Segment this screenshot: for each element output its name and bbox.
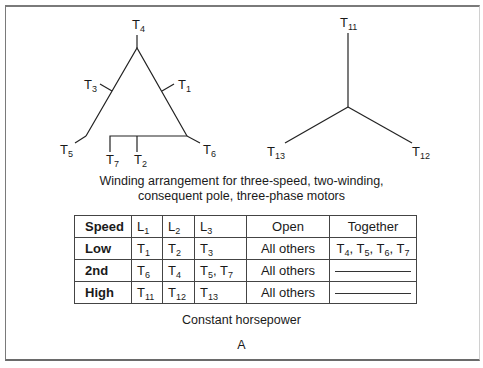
diagram-caption-line1: Winding arrangement for three-speed, two… [0,173,483,189]
terminal-t11-label: T11 [340,16,357,29]
terminal-t2-label: T2 [134,153,147,166]
diagram-caption-line2: consequent pole, three-phase motors [0,188,483,204]
cell-open: All others [247,260,330,282]
cell-l1: T1 [132,238,163,260]
figure-label: A [0,337,483,353]
table-subtitle: Constant horsepower [0,312,483,328]
cell-l2: T12 [163,282,195,304]
terminal-t12-label: T12 [412,145,430,158]
header-speed: Speed [75,216,132,238]
cell-together-empty [330,282,417,304]
cell-speed: High [75,282,132,304]
header-l1: L1 [132,216,163,238]
connection-table: Speed L1 L2 L3 Open Together Low T1 T2 T… [74,215,417,304]
table-row: Low T1 T2 T3 All others T4, T5, T6, T7 [75,238,417,260]
cell-l3: T5, T7 [195,260,247,282]
terminal-t13-label: T13 [267,145,285,158]
cell-l3: T3 [195,238,247,260]
terminal-t3-label: T3 [84,78,97,91]
cell-l1: T6 [132,260,163,282]
header-open: Open [247,216,330,238]
terminal-t1-label: T1 [178,78,191,91]
empty-dash [335,271,411,272]
header-l3: L3 [195,216,247,238]
header-l2: L2 [163,216,195,238]
cell-l1: T11 [132,282,163,304]
cell-l3: T13 [195,282,247,304]
terminal-t6-label: T6 [203,143,216,156]
terminal-t7-label: T7 [106,153,119,166]
wye-winding [285,33,412,143]
terminal-t5-label: T5 [60,143,73,156]
cell-l2: T2 [163,238,195,260]
empty-dash [335,293,411,294]
table-row: High T11 T12 T13 All others [75,282,417,304]
header-together: Together [330,216,417,238]
cell-together: T4, T5, T6, T7 [330,238,417,260]
cell-speed: Low [75,238,132,260]
table-header-row: Speed L1 L2 L3 Open Together [75,216,417,238]
terminal-t4-label: T4 [132,18,145,31]
cell-open: All others [247,238,330,260]
cell-speed: 2nd [75,260,132,282]
cell-open: All others [247,282,330,304]
table-row: 2nd T6 T4 T5, T7 All others [75,260,417,282]
cell-l2: T4 [163,260,195,282]
cell-together-empty [330,260,417,282]
